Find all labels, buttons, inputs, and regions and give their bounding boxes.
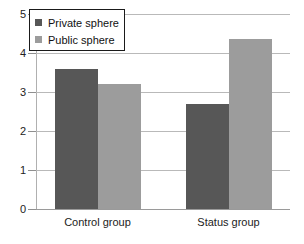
y-tick-label-1: 1 — [2, 165, 26, 176]
bar-status-public-sphere — [229, 39, 272, 209]
bar-status-private-sphere — [186, 104, 229, 209]
private-swatch-icon — [35, 19, 42, 26]
y-tick-label-0: 0 — [2, 204, 26, 215]
bar-control-private-sphere — [55, 69, 98, 209]
y-tick-label-5: 5 — [2, 9, 26, 20]
chart-legend: Private sphere Public sphere — [29, 9, 125, 51]
x-category-label-control-group: Control group — [50, 216, 145, 229]
legend-label-public-sphere: Public sphere — [48, 34, 115, 46]
y-tick-label-4: 4 — [2, 48, 26, 59]
y-axis-labels: 5 4 3 2 1 0 — [0, 0, 26, 244]
public-swatch-icon — [35, 36, 42, 43]
bar-chart: 5 4 3 2 1 0 Control group Status group — [0, 0, 304, 244]
legend-item-public-sphere: Public sphere — [35, 31, 119, 48]
legend-label-private-sphere: Private sphere — [48, 17, 119, 29]
gridline-baseline-0 — [36, 209, 290, 210]
legend-item-private-sphere: Private sphere — [35, 14, 119, 31]
y-tick-label-3: 3 — [2, 87, 26, 98]
x-category-label-status-group: Status group — [181, 216, 276, 229]
y-tick-label-2: 2 — [2, 126, 26, 137]
bar-control-public-sphere — [98, 84, 141, 209]
